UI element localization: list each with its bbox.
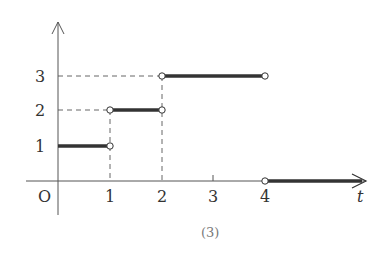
y-tick-label-2: 2 [35,101,45,120]
axes [26,22,366,215]
x-tick-label-2: 2 [157,187,167,206]
step-segments [58,76,362,181]
x-tick-label-4: 4 [260,187,270,206]
figure-caption: (3) [201,225,219,240]
open-point-1-2 [107,107,113,113]
x-axis-label: t [357,187,364,206]
open-point-2-3 [159,73,165,79]
open-point-2-2 [159,107,165,113]
open-point-4-3 [262,73,268,79]
y-tick-label-1: 1 [35,137,45,156]
x-tick-label-1: 1 [105,187,115,206]
chart-canvas: 1 2 3 O 1 2 3 4 t (3) [0,0,389,263]
open-endpoints [107,73,268,184]
guide-lines [58,76,162,181]
open-point-4-0 [262,178,268,184]
x-tick-label-3: 3 [208,187,218,206]
origin-label: O [38,187,51,206]
step-function-chart: 1 2 3 O 1 2 3 4 t (3) [0,0,389,263]
open-point-1-1 [107,143,113,149]
y-tick-label-3: 3 [35,67,45,86]
